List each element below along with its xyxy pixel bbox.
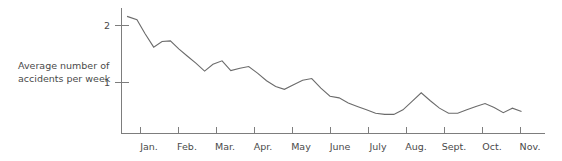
y-tick-label-2: 2 [104,20,110,31]
x-tick-label-oct: Oct. [482,141,501,152]
x-tick-label-nov: Nov. [520,141,541,152]
x-tick-label-mar: Mar. [215,141,235,152]
x-tick-label-aug: Aug. [405,141,427,152]
x-axis-group: Jan. Feb. Mar. Apr. May June July Aug. S… [121,127,545,152]
x-tick-label-jan: Jan. [139,141,158,152]
x-tick-label-sept: Sept. [442,141,467,152]
line-chart-figure: 2 1 Average number of accidents per week… [0,0,562,161]
x-tick-label-may: May [291,141,311,152]
data-series-line-accidents [127,16,521,114]
x-tick-label-feb: Feb. [177,141,197,152]
chart-canvas: 2 1 Average number of accidents per week… [0,0,562,161]
y-axis-title: Average number of accidents per week [18,60,111,84]
x-tick-label-june: June [329,141,351,152]
x-tick-label-july: July [368,141,386,152]
y-axis-title-line-1: Average number of [18,60,110,71]
y-axis-title-line-2: accidents per week [18,73,111,84]
x-tick-label-apr: Apr. [254,141,273,152]
plot-area [127,16,521,114]
